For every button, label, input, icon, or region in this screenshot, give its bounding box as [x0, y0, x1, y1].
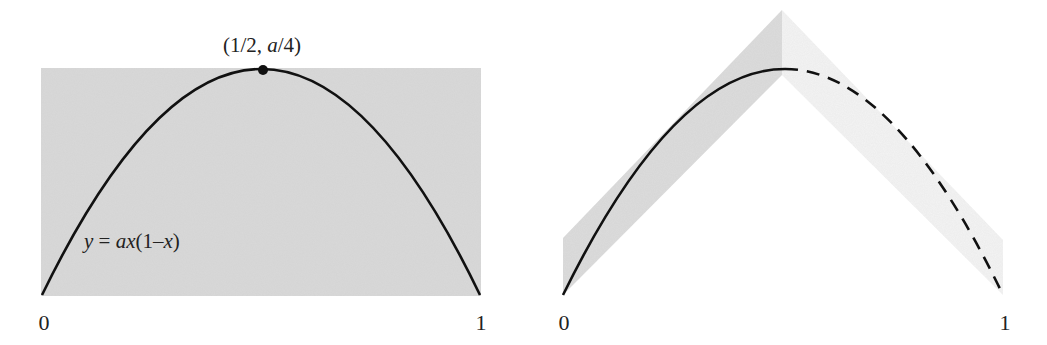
- peak-point: [258, 65, 268, 75]
- curve-equation-label: y = ax(1–x): [82, 229, 180, 253]
- shaded-band-left-branch: [563, 10, 782, 295]
- logistic-map-figure: (1/2, a/4) y = ax(1–x) 0 1 0 1: [0, 0, 1047, 345]
- peak-label: (1/2, a/4): [223, 33, 301, 57]
- x-tick-1-right: 1: [1000, 310, 1011, 335]
- shaded-band-right-branch: [782, 10, 1003, 295]
- left-panel: (1/2, a/4) y = ax(1–x) 0 1: [39, 33, 487, 335]
- right-panel: 0 1: [559, 10, 1011, 335]
- x-tick-0: 0: [39, 310, 50, 335]
- x-tick-0-right: 0: [559, 310, 570, 335]
- x-tick-1: 1: [476, 310, 487, 335]
